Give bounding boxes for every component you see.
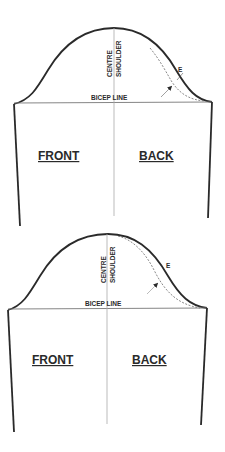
front-label: FRONT: [32, 353, 74, 367]
bicep-line-label: BICEP LINE: [91, 94, 128, 101]
sleeve-diagram-2: CENTRE SHOULDER E BICEP LINE FRONT BACK: [8, 234, 207, 432]
shoulder-label: SHOULDER: [115, 40, 122, 77]
centre-label: CENTRE: [100, 256, 107, 283]
centre-label: CENTRE: [106, 50, 113, 77]
sleeve-cap-curve: [8, 234, 207, 310]
back-label: BACK: [139, 149, 174, 163]
back-underarm-seam: [208, 102, 212, 218]
back-underarm-seam: [201, 308, 207, 425]
sleeve-diagram-1: CENTRE SHOULDER E BICEP LINE FRONT BACK: [14, 28, 212, 226]
adjustment-arrow: [161, 87, 171, 97]
front-label: FRONT: [38, 149, 80, 163]
adjusted-cap-curve-dashed: [118, 236, 200, 308]
front-underarm-seam: [14, 104, 20, 226]
bicep-line: [8, 308, 207, 309]
shoulder-label: SHOULDER: [109, 246, 116, 283]
bicep-line-label: BICEP LINE: [85, 300, 122, 307]
point-e-label: E: [178, 66, 183, 73]
adjustment-arrow: [147, 284, 157, 294]
adjusted-cap-curve-dashed: [150, 48, 205, 101]
point-e-label: E: [166, 262, 171, 269]
back-label: BACK: [132, 353, 167, 367]
sleeve-pattern-diagrams: CENTRE SHOULDER E BICEP LINE FRONT BACK …: [0, 0, 225, 452]
bicep-line: [14, 102, 212, 103]
front-underarm-seam: [8, 310, 14, 432]
